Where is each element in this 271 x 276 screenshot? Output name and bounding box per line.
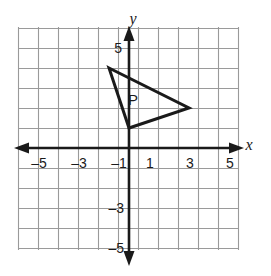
triangle-p-label: P	[128, 91, 138, 108]
coordinate-plane-figure: –5 –3 –1 1 3 5 5 –3 –5 x y P	[0, 0, 271, 276]
x-tick-label: 5	[226, 155, 234, 171]
coordinate-plane-svg: –5 –3 –1 1 3 5 5 –3 –5 x y P	[0, 0, 271, 276]
figure-background	[0, 0, 271, 276]
y-tick-label: –3	[108, 200, 124, 216]
x-tick-label: 3	[186, 155, 194, 171]
y-tick-label: –5	[108, 240, 124, 256]
x-tick-label: –5	[31, 155, 47, 171]
x-axis-label: x	[244, 136, 252, 153]
y-tick-label: 5	[114, 40, 122, 56]
y-axis-label: y	[127, 10, 137, 28]
x-tick-label: 1	[146, 155, 154, 171]
x-tick-label: –3	[71, 155, 87, 171]
x-tick-label: –1	[111, 155, 127, 171]
